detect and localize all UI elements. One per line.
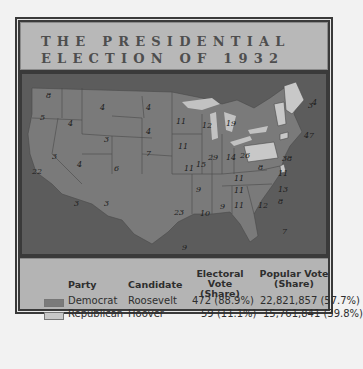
popular-hoover: 15,761,841 (39.8%): [263, 308, 363, 319]
ev-va: 11: [278, 169, 288, 178]
ev-mo: 15: [196, 160, 206, 169]
ev-mn: 11: [176, 117, 186, 126]
ev-ia: 11: [178, 142, 188, 151]
ev-nv: 3: [52, 152, 57, 161]
ev-id: 4: [67, 119, 73, 128]
ev-ut: 4: [76, 160, 82, 169]
ev-sc: 8: [278, 197, 283, 206]
ev-ca: 22: [31, 167, 42, 176]
ev-mt: 4: [99, 103, 105, 112]
electoral-hoover: 59 (11.1%): [201, 308, 256, 319]
ev-az: 3: [74, 199, 79, 208]
ev-nm: 3: [104, 199, 109, 208]
ev-co: 6: [114, 164, 119, 173]
ev-wi: 12: [202, 121, 212, 130]
header-party: Party: [68, 280, 97, 290]
us-map: 8 5 22 4 3 4 3 4 6 3 3 4 4 7 9 11 23: [22, 74, 326, 254]
map-inner-border: THE PRESIDENTIAL ELECTION OF 1932: [17, 19, 331, 312]
ev-tx: 23: [173, 208, 184, 217]
header-popular-vote: Popular Vote (Share): [258, 269, 330, 289]
ev-or: 5: [40, 113, 45, 122]
ev-nd: 4: [145, 103, 151, 112]
party-republican: Republican: [68, 308, 123, 319]
header-candidate: Candidate: [128, 280, 182, 290]
ev-ga: 12: [258, 201, 268, 210]
title-line-1: THE PRESIDENTIAL: [41, 34, 291, 49]
map-frame: THE PRESIDENTIAL ELECTION OF 1932: [15, 17, 333, 314]
ev-ks: 9: [182, 243, 187, 252]
ev-in: 14: [226, 153, 236, 162]
us-map-svg: 8 5 22 4 3 4 3 4 6 3 3 4 4 7 9 11 23: [22, 74, 324, 254]
ev-ms: 9: [220, 202, 225, 211]
ev-il: 29: [207, 153, 218, 162]
title-line-2: ELECTION OF 1932: [41, 51, 284, 66]
ev-ny: 47: [303, 131, 315, 140]
ev-wa: 8: [46, 91, 51, 100]
electoral-roosevelt: 472 (88.9%): [192, 295, 254, 306]
popular-roosevelt: 22,821,857 (57.7%): [260, 295, 360, 306]
ev-nh: 4: [311, 98, 317, 107]
ev-wv: 8: [258, 163, 263, 172]
ev-ar: 9: [196, 185, 201, 194]
ev-mi: 19: [226, 119, 236, 128]
ev-al: 11: [234, 201, 244, 210]
ev-nc: 13: [278, 185, 288, 194]
democrat-swatch: [44, 299, 64, 307]
ev-pa: 38: [282, 154, 292, 163]
party-democrat: Democrat: [68, 295, 117, 306]
title-box: THE PRESIDENTIAL ELECTION OF 1932: [20, 22, 328, 70]
ev-ky: 11: [234, 174, 244, 183]
candidate-hoover: Hoover: [128, 308, 164, 319]
ev-tn: 11: [234, 186, 244, 195]
ev-la: 10: [200, 209, 210, 218]
legend-table: Party Candidate Electoral Vote (Share) P…: [20, 258, 328, 309]
ev-sd: 4: [145, 127, 151, 136]
ev-wy: 3: [104, 135, 109, 144]
ev-ok: 11: [184, 164, 194, 173]
candidate-roosevelt: Roosevelt: [128, 295, 177, 306]
ev-oh: 26: [239, 151, 250, 160]
republican-swatch: [44, 312, 64, 320]
